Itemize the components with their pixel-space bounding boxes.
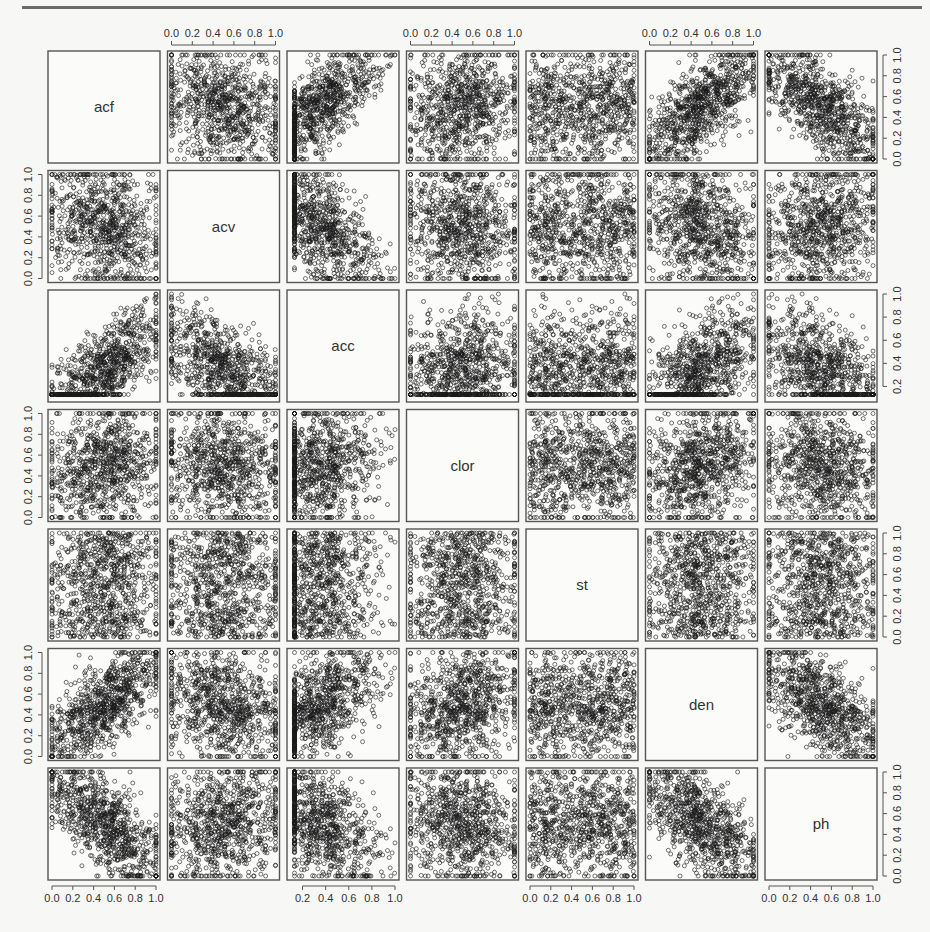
tick-label: 0.2 — [65, 892, 80, 904]
tick-label: 0.8 — [247, 27, 262, 39]
tick-label: 1.0 — [746, 27, 761, 39]
tick-label: 0.6 — [824, 892, 839, 904]
panel-clor-vs-ph — [765, 410, 877, 522]
panel-ph-vs-acc — [287, 768, 399, 880]
tick-label: 0.2 — [295, 892, 310, 904]
tick-label: 1.0 — [148, 892, 163, 904]
panel-den-vs-den: den — [646, 649, 758, 761]
panel-acv-vs-acf — [48, 171, 160, 283]
tick-label: 1.0 — [891, 764, 903, 779]
panel-ph-vs-st — [526, 768, 638, 880]
tick-label: 0.6 — [465, 27, 480, 39]
tick-label: 0.0 — [891, 151, 903, 166]
tick-label: 0.0 — [44, 892, 59, 904]
tick-label: 1.0 — [22, 645, 34, 660]
panel-acc-vs-clor — [407, 290, 519, 402]
panel-den-vs-st — [526, 649, 638, 761]
panel-acf-vs-acf: acf — [48, 51, 160, 163]
tick-label: 0.4 — [803, 892, 818, 904]
panel-st-vs-acf — [48, 529, 160, 641]
tick-label: 0.6 — [22, 208, 34, 223]
variable-label-st: st — [576, 576, 589, 593]
tick-label: 0.0 — [891, 629, 903, 644]
tick-label: 0.4 — [891, 356, 903, 371]
tick-label: 0.0 — [761, 892, 776, 904]
tick-label: 0.4 — [891, 110, 903, 125]
tick-label: 0.8 — [606, 892, 621, 904]
tick-label: 0.0 — [22, 510, 34, 525]
panel-clor-vs-acv — [168, 410, 280, 522]
tick-label: 0.6 — [22, 447, 34, 462]
right-axis-ph: 0.00.20.40.60.81.0 — [883, 764, 903, 883]
tick-label: 0.4 — [564, 892, 579, 904]
panel-ph-vs-acf — [48, 768, 160, 880]
tick-label: 1.0 — [22, 406, 34, 421]
tick-label: 0.4 — [86, 892, 101, 904]
tick-label: 0.8 — [891, 309, 903, 324]
tick-label: 0.6 — [107, 892, 122, 904]
tick-label: 0.4 — [891, 588, 903, 603]
tick-label: 1.0 — [891, 47, 903, 62]
panel-acf-vs-clor — [407, 51, 519, 163]
tick-label: 0.0 — [22, 749, 34, 764]
bottom-axis-acf: 0.00.20.40.60.81.0 — [44, 886, 163, 904]
left-axis-acv: 0.00.20.40.60.81.0 — [22, 167, 42, 286]
tick-label: 0.2 — [22, 250, 34, 265]
tick-label: 0.4 — [22, 229, 34, 244]
tick-label: 0.0 — [164, 27, 179, 39]
tick-label: 1.0 — [891, 525, 903, 540]
panel-acv-vs-den — [646, 171, 758, 283]
panel-clor-vs-acf — [48, 410, 160, 522]
tick-label: 0.6 — [22, 686, 34, 701]
top-axis-acv: 0.00.20.40.60.81.0 — [164, 27, 283, 45]
tick-label: 0.6 — [341, 892, 356, 904]
scatterplot-matrix: acfacvaccclorstdenph0.00.20.40.60.81.00.… — [0, 0, 930, 932]
panel-st-vs-den — [646, 529, 758, 641]
tick-label: 0.6 — [585, 892, 600, 904]
panel-clor-vs-den — [646, 410, 758, 522]
tick-label: 0.6 — [891, 567, 903, 582]
tick-label: 0.2 — [891, 848, 903, 863]
tick-label: 0.8 — [891, 68, 903, 83]
tick-label: 0.6 — [704, 27, 719, 39]
tick-label: 0.8 — [891, 546, 903, 561]
panel-den-vs-acv — [168, 649, 280, 761]
panel-den-vs-acf — [48, 649, 160, 761]
tick-label: 1.0 — [22, 167, 34, 182]
tick-label: 0.4 — [683, 27, 698, 39]
bottom-axis-acc: 0.20.40.60.81.0 — [295, 886, 403, 904]
variable-label-acc: acc — [331, 337, 355, 354]
panel-acf-vs-st — [526, 51, 638, 163]
tick-label: 1.0 — [865, 892, 880, 904]
panel-st-vs-clor — [407, 529, 519, 641]
tick-label: 0.2 — [663, 27, 678, 39]
tick-label: 0.0 — [642, 27, 657, 39]
tick-label: 0.6 — [891, 806, 903, 821]
tick-label: 0.8 — [22, 427, 34, 442]
panel-st-vs-acv — [168, 529, 280, 641]
panel-acc-vs-acf — [48, 290, 160, 402]
panel-acv-vs-ph — [765, 171, 877, 283]
tick-label: 0.4 — [205, 27, 220, 39]
tick-label: 0.2 — [891, 131, 903, 146]
right-axis-st: 0.00.20.40.60.81.0 — [883, 525, 903, 644]
tick-label: 0.2 — [543, 892, 558, 904]
tick-label: 0.8 — [891, 785, 903, 800]
tick-label: 0.2 — [891, 609, 903, 624]
panel-ph-vs-clor — [407, 768, 519, 880]
tick-label: 0.2 — [891, 379, 903, 394]
tick-label: 0.8 — [22, 188, 34, 203]
bottom-axis-st: 0.00.20.40.60.81.0 — [522, 886, 641, 904]
tick-label: 1.0 — [626, 892, 641, 904]
tick-label: 1.0 — [268, 27, 283, 39]
tick-label: 0.4 — [22, 468, 34, 483]
variable-label-clor: clor — [450, 457, 474, 474]
tick-label: 0.8 — [486, 27, 501, 39]
tick-label: 1.0 — [891, 286, 903, 301]
panel-acc-vs-den — [646, 290, 758, 402]
tick-label: 0.4 — [891, 827, 903, 842]
tick-label: 0.2 — [22, 489, 34, 504]
panel-den-vs-ph — [765, 649, 877, 761]
panel-acf-vs-den — [646, 51, 758, 163]
tick-label: 0.0 — [403, 27, 418, 39]
